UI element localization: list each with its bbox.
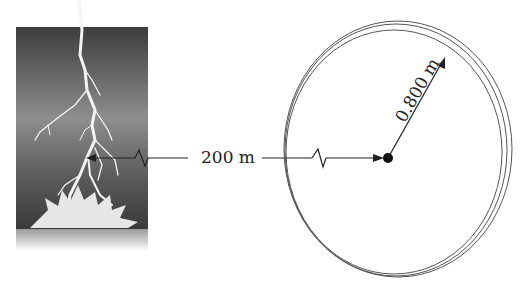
physics-diagram: 200 m 0.800 m <box>0 0 523 288</box>
lightning-panel <box>16 0 148 251</box>
distance-label: 200 m <box>197 147 259 167</box>
arrowhead-right-icon <box>373 154 384 162</box>
diagram-graphics <box>0 0 523 288</box>
